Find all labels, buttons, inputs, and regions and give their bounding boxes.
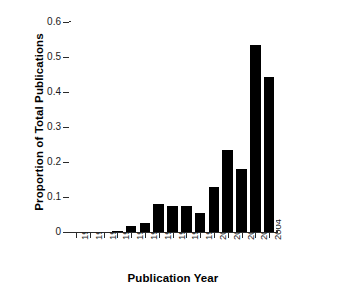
y-tick-label: 0.1	[31, 192, 61, 202]
y-tick-label: 0	[31, 227, 61, 237]
y-tick-label-wrap: 0.5	[28, 52, 61, 62]
bar	[264, 77, 275, 232]
x-tick-mark	[145, 233, 146, 238]
y-tick-label: 0.4	[31, 87, 61, 97]
y-tick-label-wrap: 0.6	[28, 17, 61, 27]
bar	[140, 223, 151, 232]
y-tick-label-wrap: 0	[28, 227, 61, 237]
x-tick-mark	[214, 233, 215, 238]
bar	[126, 226, 137, 232]
x-tick-mark	[242, 233, 243, 238]
bar	[181, 206, 192, 232]
x-tick-mark	[117, 233, 118, 238]
y-tick-mark	[63, 232, 69, 233]
x-tick-mark	[76, 233, 77, 238]
y-tick-label-wrap: 0.4	[28, 87, 61, 97]
bar	[112, 231, 123, 232]
x-axis-title: Publication Year	[0, 272, 346, 284]
x-tick-mark	[200, 233, 201, 238]
y-tick-label-wrap: 0.2	[28, 157, 61, 167]
y-tick-label: 0.2	[31, 157, 61, 167]
x-tick-mark	[104, 233, 105, 238]
x-tick-mark	[131, 233, 132, 238]
bar	[195, 213, 206, 232]
y-tick-label: 0.3	[31, 122, 61, 132]
bar	[250, 45, 261, 232]
y-tick-label: 0.6	[31, 17, 61, 27]
x-tick-mark	[255, 233, 256, 238]
x-tick-mark	[90, 233, 91, 238]
x-tick-mark	[186, 233, 187, 238]
bar	[209, 187, 220, 232]
x-tick-mark	[159, 233, 160, 238]
bar	[236, 169, 247, 232]
bar	[167, 206, 178, 232]
bar	[222, 150, 233, 232]
x-tick-mark	[228, 233, 229, 238]
x-tick-mark	[269, 233, 270, 238]
y-tick-label-wrap: 0.3	[28, 122, 61, 132]
plot-area	[69, 22, 276, 232]
y-tick-label: 0.5	[31, 52, 61, 62]
y-tick-label-wrap: 0.1	[28, 192, 61, 202]
bar-chart-figure: Proportion of Total Publications 00.10.2…	[0, 0, 346, 293]
bar	[153, 204, 164, 232]
x-tick-mark	[173, 233, 174, 238]
